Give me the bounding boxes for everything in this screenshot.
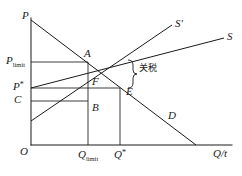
p-limit-base: P <box>6 54 13 66</box>
q-limit-subscript: limit <box>86 155 98 162</box>
q-limit-base: Q <box>78 148 86 160</box>
p-star-superscript: * <box>20 80 24 89</box>
quantity-tick-q-limit: Qlimit <box>78 149 98 160</box>
point-label-f: F <box>92 76 99 87</box>
origin-label: O <box>20 146 28 157</box>
demand-label: D <box>168 110 176 121</box>
price-axis-label: P <box>22 10 29 21</box>
price-tick-p-limit: Plimit <box>6 55 25 66</box>
supply-label: S <box>227 31 233 42</box>
demand-curve <box>31 20 196 145</box>
point-label-e: E <box>126 86 133 97</box>
supply-with-tariff-label: S' <box>175 18 183 29</box>
p-limit-subscript: limit <box>13 61 25 68</box>
price-tick-p-star: P* <box>13 81 24 92</box>
point-label-b: B <box>92 102 99 113</box>
p-star-base: P <box>13 80 20 92</box>
tariff-brace <box>128 60 137 88</box>
supply-curve <box>31 38 224 88</box>
q-star-base: Q <box>114 148 122 160</box>
price-tick-c: C <box>14 94 21 105</box>
tariff-diagram: P Q/t O Plimit P* C Qlimit Q* S' S D A F… <box>0 0 242 176</box>
q-star-superscript: * <box>122 148 126 157</box>
quantity-axis-label: Q/t <box>213 148 227 159</box>
quantity-tick-q-star: Q* <box>114 149 126 160</box>
tariff-annotation-text: 关税 <box>139 64 157 73</box>
point-label-a: A <box>84 48 91 59</box>
supply-with-tariff-curve <box>31 25 172 121</box>
